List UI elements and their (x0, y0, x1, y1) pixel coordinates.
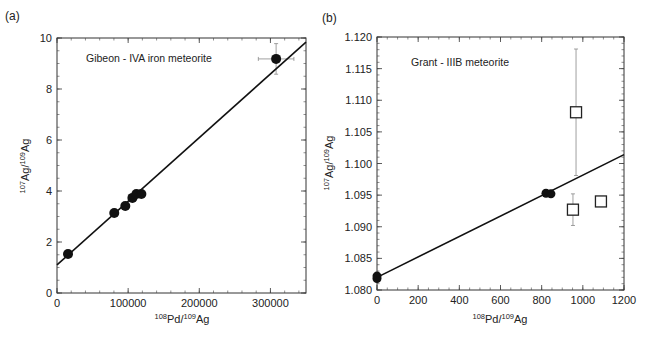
tick-labels-a: 01000002000003000000246810 (40, 32, 289, 309)
y-tick-label: 2 (46, 236, 52, 248)
x-tick-label: 300000 (252, 297, 289, 309)
data-point-filled-circle (136, 189, 146, 199)
y-axis-title-a: 107Ag/109Ag (18, 138, 31, 193)
data-point-open-square (571, 107, 582, 118)
isochron-fit-line (377, 155, 624, 278)
y-tick-label: 0 (46, 287, 52, 299)
x-axis-title-b: 108Pd/109Ag (472, 312, 527, 325)
y-tick-label: 1.080 (344, 284, 372, 296)
y-tick-label: 1.115 (345, 63, 372, 75)
x-tick-label: 100000 (110, 297, 147, 309)
x-tick-label: 400 (450, 294, 468, 306)
panel-a-label: (a) (5, 9, 20, 23)
x-tick-label: 800 (532, 294, 550, 306)
x-tick-label: 200000 (181, 297, 218, 309)
data-series-b (373, 49, 625, 283)
x-axis-title-a: 108Pd/109Ag (154, 312, 209, 325)
data-series-a (57, 42, 306, 265)
y-tick-label: 1.095 (344, 189, 372, 201)
panel-b-grant-chart: (b) 0200400600800100012001.0801.0851.090… (322, 11, 636, 325)
y-tick-label: 1.100 (344, 158, 372, 170)
isochron-fit-line (57, 42, 306, 265)
data-point-filled-circle (271, 54, 281, 64)
x-tick-label: 0 (54, 297, 60, 309)
annotation-grant: Grant - IIIB meteorite (411, 56, 509, 68)
y-tick-label: 6 (46, 134, 52, 146)
y-tick-label: 1.120 (344, 31, 372, 43)
annotation-gibeon: Gibeon - IVA iron meteorite (86, 52, 212, 64)
y-tick-label: 1.090 (344, 221, 372, 233)
data-point-open-square (567, 204, 578, 215)
axis-ticks-b (377, 37, 624, 290)
x-tick-label: 0 (374, 294, 380, 306)
x-tick-label: 1000 (571, 294, 595, 306)
tick-labels-b: 0200400600800100012001.0801.0851.0901.09… (344, 31, 636, 306)
data-point-open-square (595, 196, 606, 207)
y-tick-label: 1.110 (345, 94, 372, 106)
y-tick-label: 4 (46, 185, 52, 197)
plot-frame-b (377, 37, 624, 290)
x-tick-label: 1200 (612, 294, 636, 306)
figure: (a) 01000002000003000000246810 Gibeon - … (0, 0, 653, 340)
y-tick-label: 1.085 (344, 252, 372, 264)
x-tick-label: 200 (409, 294, 427, 306)
x-tick-label: 600 (491, 294, 509, 306)
y-tick-label: 10 (40, 32, 52, 44)
panel-a-gibeon-chart: (a) 01000002000003000000246810 Gibeon - … (5, 9, 306, 325)
y-axis-title-b: 107Ag/109Ag (322, 135, 335, 190)
panel-b-label: (b) (322, 11, 337, 25)
y-tick-label: 1.105 (344, 126, 372, 138)
y-tick-label: 8 (46, 83, 52, 95)
